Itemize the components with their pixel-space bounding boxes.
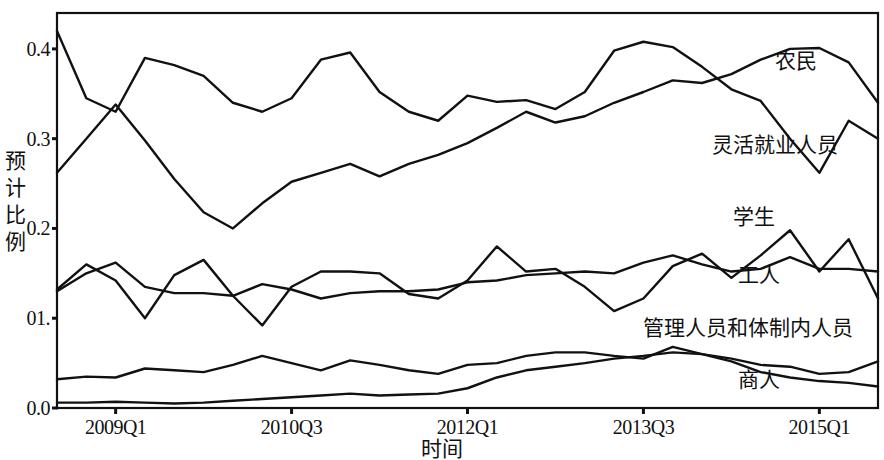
y-axis-tick-label: 0.3: [0, 127, 50, 150]
x-axis-tick-label: 2012Q1: [437, 416, 498, 439]
series-label: 工人: [738, 258, 780, 288]
series-label: 管理人员和体制内人员: [643, 311, 853, 341]
series-label: 学生: [733, 200, 775, 230]
series-label: 商人: [738, 363, 780, 393]
y-axis-tick-label: 0.4: [0, 37, 50, 60]
tick-marks: [52, 49, 819, 414]
series-label: 灵活就业人员: [712, 128, 838, 158]
chart-figure: 预计比例 时间 0.40.30.201.0.0 2009Q12010Q32012…: [0, 0, 884, 460]
x-axis-tick-label: 2010Q3: [261, 416, 322, 439]
x-axis-tick-label: 2013Q3: [613, 416, 674, 439]
y-axis-tick-label: 0.0: [0, 397, 50, 420]
y-axis-title-char: 计: [2, 175, 28, 202]
y-axis-title-char: 预: [2, 148, 28, 175]
series-label: 农民: [775, 44, 817, 74]
x-axis-tick-label: 2009Q1: [85, 416, 146, 439]
y-axis-tick-label: 0.2: [0, 217, 50, 240]
y-axis-tick-label: 01.: [0, 307, 50, 330]
x-axis-tick-label: 2015Q1: [789, 416, 850, 439]
